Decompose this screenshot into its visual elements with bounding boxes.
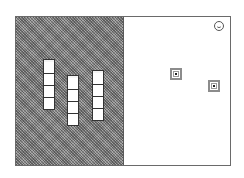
- cube[interactable]: [67, 102, 79, 114]
- cube[interactable]: [92, 109, 104, 121]
- cube[interactable]: [43, 86, 55, 98]
- cube-tray-panel: 4 4 4: [16, 17, 124, 165]
- cube[interactable]: [67, 114, 79, 126]
- target-inner-square: [211, 83, 217, 89]
- target-marker-2[interactable]: [208, 80, 220, 92]
- cube[interactable]: [92, 73, 104, 85]
- cube[interactable]: [67, 90, 79, 102]
- smiley-icon[interactable]: [214, 21, 224, 31]
- cube-stack-2[interactable]: 4: [67, 75, 79, 126]
- smiley-mouth: [217, 25, 221, 28]
- target-marker-1[interactable]: [170, 68, 182, 80]
- cube-stack-3[interactable]: 4: [92, 70, 104, 121]
- target-inner-square: [173, 71, 179, 77]
- target-center-dot: [213, 85, 215, 87]
- cube-stack-1[interactable]: 4: [43, 59, 55, 110]
- cube[interactable]: [92, 85, 104, 97]
- cube[interactable]: [43, 74, 55, 86]
- cube[interactable]: [92, 97, 104, 109]
- play-area-panel[interactable]: [124, 17, 230, 165]
- target-center-dot: [175, 73, 177, 75]
- cube[interactable]: [43, 98, 55, 110]
- cube[interactable]: [67, 78, 79, 90]
- game-board: 4 4 4: [15, 16, 231, 166]
- cube[interactable]: [43, 62, 55, 74]
